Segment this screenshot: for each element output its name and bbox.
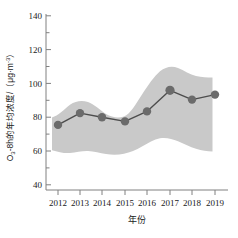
y-axis-title-end: ） — [5, 49, 15, 58]
o3-annual-concentration-chart: 140 120 100 80 60 40 2012 2013 2014 2015… — [0, 0, 238, 238]
y-tick-label-40: 40 — [33, 180, 43, 190]
data-point-2015 — [121, 117, 129, 125]
x-tick-label-2013: 2013 — [71, 198, 90, 208]
data-point-2014 — [98, 113, 106, 121]
y-tick-label-100: 100 — [29, 79, 43, 89]
y-axis-title-mid: -8h的年均浓度/（μg·m — [5, 63, 15, 151]
data-point-2013 — [76, 109, 84, 117]
data-point-2019 — [211, 90, 219, 98]
x-tick-label-2018: 2018 — [183, 198, 202, 208]
chart-container: 140 120 100 80 60 40 2012 2013 2014 2015… — [0, 0, 238, 238]
data-point-2012 — [54, 121, 62, 129]
y-tick-label-60: 60 — [33, 146, 43, 156]
x-tick-label-2019: 2019 — [206, 198, 225, 208]
data-point-2018 — [188, 95, 196, 103]
x-tick-label-2014: 2014 — [93, 198, 112, 208]
x-tick-label-2012: 2012 — [49, 198, 67, 208]
x-axis-title: 年份 — [128, 214, 146, 225]
x-tick-label-2016: 2016 — [138, 198, 157, 208]
x-tick-label-2015: 2015 — [116, 198, 135, 208]
svg-text:O3-8h的年均浓度/（μg·m-3）: O3-8h的年均浓度/（μg·m-3） — [5, 49, 16, 162]
x-axis-ticks — [58, 190, 215, 195]
y-tick-label-120: 120 — [29, 45, 43, 55]
data-point-2017 — [165, 86, 174, 95]
x-tick-label-2017: 2017 — [161, 198, 180, 208]
y-tick-label-80: 80 — [33, 112, 43, 122]
y-axis-title: O3-8h的年均浓度/（μg·m-3） — [5, 49, 16, 162]
data-point-2016 — [143, 107, 151, 115]
y-tick-label-140: 140 — [29, 11, 43, 21]
